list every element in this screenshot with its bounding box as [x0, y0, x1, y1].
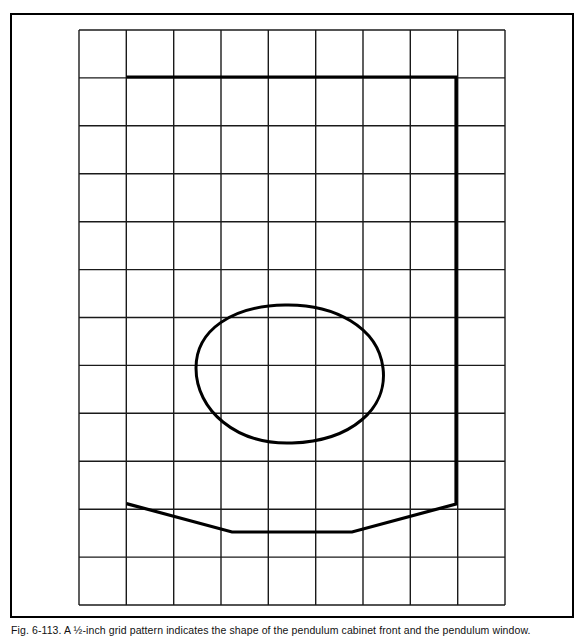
figure-6-113: Fig. 6-113. A ½-inch grid pattern indica…	[0, 0, 585, 641]
figure-caption: Fig. 6-113. A ½-inch grid pattern indica…	[11, 624, 581, 637]
paper-background	[0, 0, 585, 641]
figure-drawing-canvas	[0, 0, 585, 641]
